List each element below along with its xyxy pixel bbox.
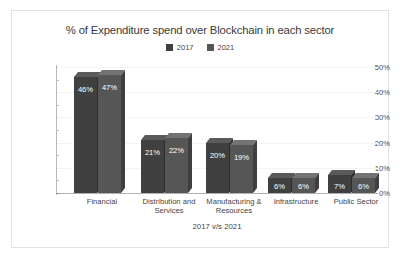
bar-2021[interactable]: 6% bbox=[292, 178, 315, 193]
x-axis-category-label: Infrastructure bbox=[263, 197, 329, 206]
bar-2017[interactable]: 6% bbox=[268, 178, 291, 193]
bar-group: 46%47% bbox=[74, 53, 126, 193]
bar-2021[interactable]: 19% bbox=[230, 145, 253, 193]
bar-group: 6%6% bbox=[268, 53, 320, 193]
bar-group: 20%19% bbox=[206, 53, 258, 193]
bar-2017[interactable]: 46% bbox=[74, 77, 97, 193]
y-axis-minor-tick bbox=[56, 105, 59, 106]
bar-2017[interactable]: 20% bbox=[206, 143, 229, 193]
bar-value-label: 21% bbox=[141, 148, 164, 157]
bar-2017[interactable]: 21% bbox=[141, 140, 164, 193]
bar-face bbox=[98, 75, 121, 193]
bar-side-face bbox=[375, 173, 379, 193]
y-axis-minor-tick bbox=[56, 130, 59, 131]
bar-value-label: 6% bbox=[352, 182, 375, 191]
bar-value-label: 46% bbox=[74, 85, 97, 94]
bar-value-label: 47% bbox=[98, 83, 121, 92]
bar-value-label: 20% bbox=[206, 151, 229, 160]
y-axis-tick-mark bbox=[56, 193, 60, 194]
plot-area: 0%10%20%30%40%50% 46%47%21%22%20%19%6%6%… bbox=[12, 11, 390, 249]
x-axis-title: 2017 v/s 2021 bbox=[56, 222, 378, 231]
chart-card: % of Expenditure spend over Blockchain i… bbox=[11, 10, 389, 248]
bar-face bbox=[74, 77, 97, 193]
y-axis-minor-tick bbox=[56, 180, 59, 181]
bar-side-face bbox=[315, 173, 319, 193]
bar-group: 21%22% bbox=[141, 53, 193, 193]
bar-value-label: 7% bbox=[328, 182, 351, 191]
x-axis-category-label: Manufacturing & Resources bbox=[198, 197, 270, 216]
x-axis-category-label: Financial bbox=[72, 197, 132, 206]
bar-value-label: 19% bbox=[230, 153, 253, 162]
bar-value-label: 6% bbox=[292, 182, 315, 191]
bar-2021[interactable]: 22% bbox=[165, 138, 188, 193]
bar-side-face bbox=[253, 140, 257, 193]
bar-value-label: 22% bbox=[165, 146, 188, 155]
y-axis-minor-tick bbox=[56, 80, 59, 81]
bar-value-label: 6% bbox=[268, 182, 291, 191]
x-axis-category-label: Distribution and Services bbox=[133, 197, 205, 216]
y-axis-minor-tick bbox=[56, 155, 59, 156]
bar-2021[interactable]: 47% bbox=[98, 75, 121, 193]
x-axis-category-label: Public Sector bbox=[326, 197, 386, 206]
bar-2017[interactable]: 7% bbox=[328, 175, 351, 193]
bar-side-face bbox=[188, 132, 192, 193]
x-axis-line bbox=[56, 193, 378, 194]
bar-group: 7%6% bbox=[328, 53, 380, 193]
bar-side-face bbox=[121, 69, 125, 193]
bar-2021[interactable]: 6% bbox=[352, 178, 375, 193]
